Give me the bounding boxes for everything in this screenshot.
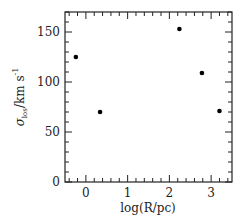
- y-tick-label: 100: [37, 75, 60, 89]
- x-axis-title: log(R/pc): [120, 201, 176, 215]
- x-tick-label: 0: [82, 186, 90, 200]
- data-points: [74, 27, 222, 115]
- data-point: [74, 55, 79, 60]
- y-axis-superscript: -1: [11, 68, 20, 76]
- y-tick-label: 0: [52, 175, 60, 189]
- y-tick-label: 150: [37, 25, 60, 39]
- y-axis-subscript: los: [21, 108, 29, 118]
- plot-frame: [65, 12, 232, 182]
- x-tick-label: 1: [124, 186, 132, 200]
- data-point: [217, 109, 222, 114]
- y-tick-label: 50: [45, 125, 60, 139]
- data-point: [200, 71, 205, 76]
- x-tick-label: 2: [166, 186, 174, 200]
- y-axis-title: σlos/km s-1: [11, 68, 29, 127]
- y-tick-labels: 050100150: [37, 25, 60, 189]
- scatter-plot: 0123 050100150 log(R/pc) σlos/km s-1: [0, 0, 242, 222]
- y-axis-units: /km s: [13, 75, 27, 108]
- data-point: [177, 27, 182, 32]
- x-tick-label: 3: [207, 186, 215, 200]
- x-tick-labels: 0123: [82, 186, 215, 200]
- data-point: [98, 110, 103, 115]
- axis-ticks: [65, 12, 232, 182]
